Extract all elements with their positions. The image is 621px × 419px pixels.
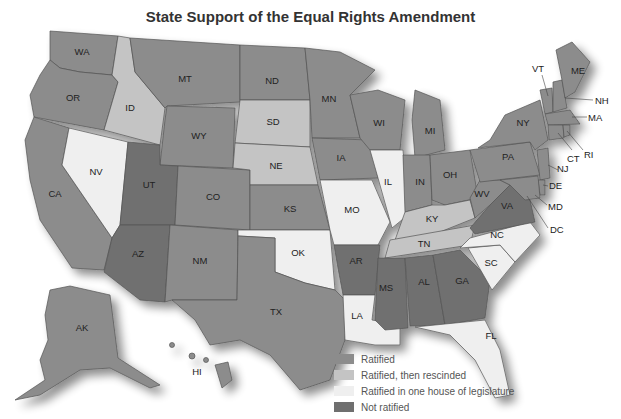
legend: Ratified Ratified, then rescinded Ratifi… — [334, 352, 514, 416]
label-sc: SC — [484, 257, 497, 268]
label-co: CO — [206, 191, 220, 202]
legend-swatch-ratified — [334, 354, 354, 364]
label-al: AL — [418, 276, 430, 287]
label-la: LA — [351, 310, 363, 321]
state-hi[interactable] — [215, 362, 232, 388]
label-nc: NC — [490, 229, 504, 240]
legend-item-ratified: Ratified — [334, 352, 514, 366]
label-ri: RI — [584, 149, 594, 160]
label-hi: HI — [192, 366, 202, 377]
label-ky: KY — [426, 213, 439, 224]
state-ms[interactable] — [375, 258, 408, 330]
label-mt: MT — [178, 73, 192, 84]
state-hi-island — [170, 343, 175, 348]
label-fl: FL — [485, 330, 496, 341]
label-mo: MO — [344, 204, 359, 215]
label-in: IN — [415, 176, 425, 187]
label-ut: UT — [143, 179, 156, 190]
label-ca: CA — [48, 188, 62, 199]
label-ga: GA — [455, 275, 469, 286]
label-ar: AR — [349, 255, 362, 266]
label-nj: NJ — [557, 163, 569, 174]
leader-nh — [565, 98, 593, 100]
label-ms: MS — [379, 282, 393, 293]
us-map: WA OR CA ID NV MT WY UT CO AZ NM ND SD N… — [0, 0, 621, 419]
label-wv: WV — [474, 188, 490, 199]
label-va: VA — [501, 200, 514, 211]
label-oh: OH — [443, 169, 457, 180]
label-nh: NH — [595, 95, 609, 106]
state-mi[interactable] — [412, 90, 445, 158]
legend-swatch-rescinded — [334, 370, 354, 380]
label-wa: WA — [75, 46, 91, 57]
legend-label: Ratified in one house of legislature — [361, 386, 514, 397]
label-tn: TN — [418, 238, 431, 249]
label-ne: NE — [269, 160, 282, 171]
label-mi: MI — [425, 125, 436, 136]
label-tx: TX — [270, 306, 283, 317]
legend-swatch-not-ratified — [334, 402, 354, 412]
label-ny: NY — [516, 117, 530, 128]
state-hi-island — [204, 358, 209, 363]
state-ar[interactable] — [334, 245, 380, 295]
label-ma: MA — [588, 112, 603, 123]
legend-item-one-house: Ratified in one house of legislature — [334, 384, 514, 398]
label-wy: WY — [191, 130, 207, 141]
label-id: ID — [125, 102, 135, 113]
leader-md — [535, 195, 547, 205]
label-pa: PA — [502, 151, 515, 162]
state-nd[interactable] — [240, 45, 310, 100]
label-or: OR — [66, 92, 80, 103]
label-wi: WI — [373, 117, 385, 128]
state-ny[interactable] — [478, 100, 548, 150]
legend-label: Ratified — [361, 354, 395, 365]
label-mn: MN — [322, 93, 337, 104]
legend-item-rescinded: Ratified, then rescinded — [334, 368, 514, 382]
legend-swatch-one-house — [334, 386, 354, 396]
label-az: AZ — [132, 248, 144, 259]
label-vt: VT — [532, 63, 544, 74]
state-hi-island — [189, 353, 195, 359]
label-md: MD — [548, 201, 563, 212]
label-ks: KS — [284, 203, 297, 214]
legend-label: Ratified, then rescinded — [361, 370, 466, 381]
label-nv: NV — [89, 166, 103, 177]
label-il: IL — [384, 176, 392, 187]
label-ok: OK — [291, 247, 305, 258]
legend-label: Not ratified — [361, 402, 409, 413]
label-sd: SD — [266, 116, 279, 127]
legend-item-not-ratified: Not ratified — [334, 400, 514, 414]
label-nd: ND — [265, 75, 279, 86]
label-me: ME — [571, 65, 585, 76]
state-az[interactable] — [104, 225, 170, 302]
label-nm: NM — [193, 255, 208, 266]
label-dc: DC — [550, 224, 564, 235]
state-ri[interactable] — [563, 125, 570, 137]
label-de: DE — [549, 180, 562, 191]
state-ak[interactable] — [15, 286, 160, 400]
label-ia: IA — [337, 152, 347, 163]
label-ak: AK — [76, 322, 89, 333]
label-ct: CT — [567, 153, 580, 164]
